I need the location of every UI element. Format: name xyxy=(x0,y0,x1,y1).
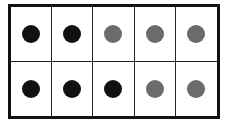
black-dot-icon xyxy=(22,25,40,43)
frame-cell xyxy=(176,7,217,62)
black-dot-icon xyxy=(63,25,81,43)
gray-dot-icon xyxy=(187,80,205,98)
gray-dot-icon xyxy=(146,80,164,98)
black-dot-icon xyxy=(22,80,40,98)
black-dot-icon xyxy=(63,80,81,98)
black-dot-icon xyxy=(104,80,122,98)
frame-cell xyxy=(52,62,93,117)
gray-dot-icon xyxy=(146,25,164,43)
frame-cell xyxy=(52,7,93,62)
frame-cell xyxy=(176,62,217,117)
gray-dot-icon xyxy=(104,25,122,43)
frame-cell xyxy=(11,62,52,117)
frame-cell xyxy=(135,62,176,117)
ten-frame xyxy=(8,4,220,119)
frame-cell xyxy=(93,62,134,117)
frame-cell xyxy=(93,7,134,62)
frame-cell xyxy=(135,7,176,62)
gray-dot-icon xyxy=(187,25,205,43)
frame-cell xyxy=(11,7,52,62)
